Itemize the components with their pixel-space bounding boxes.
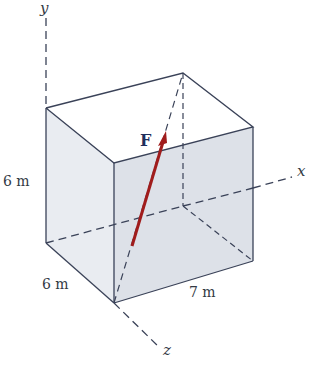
z-axis-label: z <box>163 343 171 358</box>
force-label: F <box>140 133 151 149</box>
force-arrowhead <box>158 131 167 146</box>
x-axis-extension <box>253 177 292 188</box>
dimension-height-label: 6 m <box>3 174 30 188</box>
dimension-depth-label: 6 m <box>42 277 69 291</box>
box-diagram-svg <box>0 0 310 368</box>
dimension-width-label: 7 m <box>189 285 216 299</box>
z-axis <box>114 303 160 348</box>
box-diagram: y x z F 6 m 6 m 7 m <box>0 0 310 368</box>
x-axis-label: x <box>297 164 305 179</box>
y-axis-label: y <box>40 1 48 16</box>
